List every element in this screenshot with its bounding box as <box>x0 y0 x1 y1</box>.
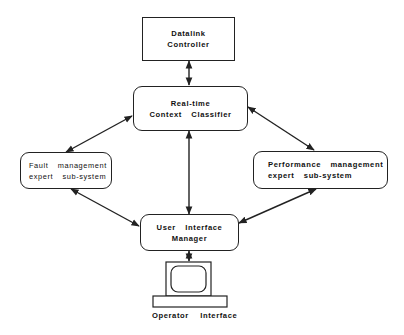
node-label: User Interface <box>157 222 223 233</box>
node-label: expert sub-system <box>29 171 111 182</box>
edge-classifier-performance <box>248 107 314 150</box>
node-label: Real-time <box>171 98 211 109</box>
node-label: Performance management <box>268 159 387 170</box>
fault-management-node: Fault management expert sub-system <box>20 152 112 189</box>
node-label: Context Classifier <box>149 109 231 120</box>
node-label: Controller <box>167 39 209 50</box>
performance-management-node: Performance management expert sub-system <box>253 151 388 189</box>
edge-performance-uimanager <box>239 189 316 223</box>
context-classifier-node: Real-time Context Classifier <box>133 86 248 131</box>
edge-fault-uimanager <box>71 189 139 226</box>
node-label: expert sub-system <box>268 170 387 181</box>
node-label: Datalink <box>171 28 205 39</box>
user-interface-manager-node: User Interface Manager <box>140 214 239 251</box>
operator-interface-label: Operator Interface <box>152 311 237 320</box>
edge-classifier-fault <box>66 116 132 152</box>
computer-terminal-icon <box>153 262 227 307</box>
node-label: Manager <box>172 233 207 244</box>
node-label: Fault management <box>29 160 111 171</box>
datalink-controller-node: Datalink Controller <box>142 17 235 61</box>
